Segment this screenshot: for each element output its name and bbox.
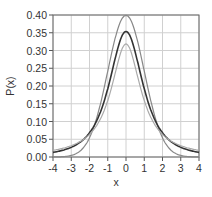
y-tick-label: 0.30 — [27, 45, 48, 57]
y-tick-label: 0.25 — [27, 62, 48, 74]
x-tick-label: 3 — [178, 162, 184, 174]
x-tick-label: 0 — [123, 162, 129, 174]
y-tick-label: 0.15 — [27, 98, 48, 110]
x-axis-label: x — [113, 176, 119, 188]
x-tick-label: 1 — [141, 162, 147, 174]
y-tick-label: 0.40 — [27, 9, 48, 21]
y-tick-label: 0.00 — [27, 151, 48, 163]
x-tick-label: 4 — [196, 162, 202, 174]
y-axis-label: P(x) — [4, 76, 16, 95]
chart: -4-3-2-1012340.000.050.100.150.200.250.3… — [0, 0, 212, 197]
x-tick-label: -2 — [85, 162, 94, 174]
x-tick-label: -4 — [48, 162, 57, 174]
y-tick-label: 0.35 — [27, 27, 48, 39]
y-tick-label: 0.20 — [27, 80, 48, 92]
axes: -4-3-2-1012340.000.050.100.150.200.250.3… — [27, 9, 203, 174]
y-tick-label: 0.10 — [27, 116, 48, 128]
x-tick-label: -1 — [103, 162, 112, 174]
x-tick-label: -3 — [67, 162, 76, 174]
x-tick-label: 2 — [160, 162, 166, 174]
grid — [53, 15, 199, 157]
y-tick-label: 0.05 — [27, 133, 48, 145]
